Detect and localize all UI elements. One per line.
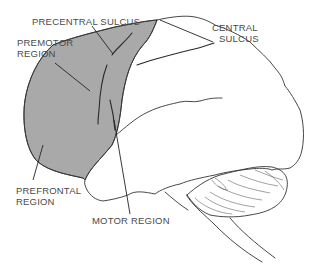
label-premotor-region: PREMOTOR REGION — [17, 37, 73, 59]
cerebellum-outline — [187, 167, 287, 217]
brain-diagram: PRECENTRAL SULCUS PREMOTOR REGION CENTRA… — [0, 0, 318, 269]
label-motor-region: MOTOR REGION — [92, 215, 170, 226]
label-prefrontal-line1: PREFRONTAL — [16, 185, 81, 196]
label-central-sulcus: CENTRAL SULCUS — [211, 22, 259, 44]
label-premotor-line2: REGION — [17, 48, 73, 59]
label-precentral-sulcus: PRECENTRAL SULCUS — [32, 16, 140, 27]
label-central-line1: CENTRAL — [211, 22, 259, 33]
lateral-fissure — [116, 98, 222, 135]
leader-central-sulcus — [160, 20, 213, 42]
label-prefrontal-line2: REGION — [16, 196, 81, 207]
pons-edge — [165, 192, 188, 210]
leader-motor-region — [114, 120, 130, 214]
label-central-line2: SULCUS — [211, 33, 259, 44]
label-premotor-line1: PREMOTOR — [17, 37, 73, 48]
label-prefrontal-region: PREFRONTAL REGION — [16, 185, 81, 207]
brainstem-left — [187, 196, 262, 262]
brainstem-right — [230, 218, 275, 258]
central-sulcus-line — [137, 43, 214, 65]
